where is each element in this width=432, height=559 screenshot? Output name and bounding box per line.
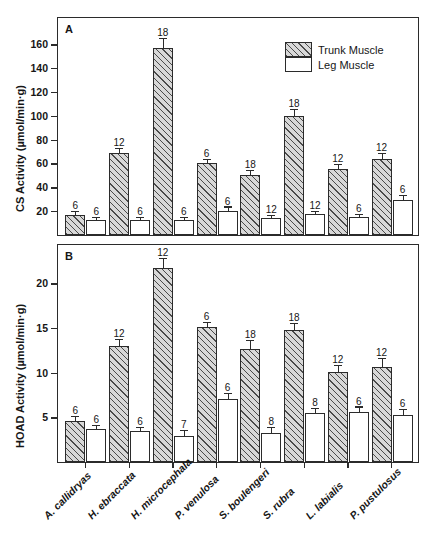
bar-trunk-muscle (109, 153, 129, 235)
error-bar-cap (355, 406, 363, 407)
sample-size-label: 12 (114, 137, 125, 148)
x-axis-tick (129, 463, 130, 468)
bar-group: 127 (153, 245, 194, 462)
sample-size-label: 6 (204, 311, 210, 322)
sample-size-label: 6 (356, 396, 362, 407)
bar-group: 126 (109, 245, 150, 462)
y-axis-tick (51, 328, 57, 329)
y-axis-tick (51, 140, 57, 141)
y-axis-tick (51, 187, 57, 188)
bar-leg-muscle (349, 217, 369, 235)
error-bar (250, 341, 251, 349)
error-bar-cap (334, 164, 342, 165)
error-bar (271, 428, 272, 432)
sample-size-label: 8 (269, 416, 275, 427)
error-bar (315, 409, 316, 413)
error-bar (338, 366, 339, 371)
error-bar (96, 426, 97, 429)
error-bar-cap (267, 215, 275, 216)
sample-size-label: 6 (73, 405, 79, 416)
sample-size-label: 12 (376, 347, 387, 358)
error-bar (228, 208, 229, 211)
error-bar (119, 149, 120, 153)
error-bar (294, 324, 295, 330)
sample-size-label: 6 (400, 184, 406, 195)
error-bar (207, 160, 208, 164)
bar-trunk-muscle (240, 175, 260, 235)
sample-size-label: 18 (157, 27, 168, 38)
x-axis-category-label: P. pustulosus (347, 465, 403, 521)
error-bar-cap (115, 339, 123, 340)
error-bar (163, 39, 164, 47)
x-axis-tick (304, 463, 305, 468)
sample-size-label: 18 (289, 98, 300, 109)
panel-b-y-axis-title: HOAD Activity (µmol/min·g) (14, 304, 26, 448)
bar-trunk-muscle (153, 48, 173, 235)
sample-size-label: 12 (376, 142, 387, 153)
error-bar (250, 171, 251, 176)
bar-leg-muscle (218, 211, 238, 235)
x-axis-category-label: P. venulosa (172, 473, 221, 522)
error-bar (119, 340, 120, 346)
bar-group: 66 (197, 245, 238, 462)
bar-leg-muscle (261, 218, 281, 235)
error-bar (403, 196, 404, 200)
panel-a-y-axis-title: CS Activity (µmol/min·g) (14, 85, 26, 212)
error-bar (75, 212, 76, 216)
y-axis-tick (51, 211, 57, 212)
panel-b-plot-area: 6612612766188188126126 (58, 245, 418, 462)
sample-size-label: 18 (245, 329, 256, 340)
error-bar-cap (203, 322, 211, 323)
sample-size-label: 18 (245, 159, 256, 170)
bar-leg-muscle (86, 220, 106, 235)
error-bar (228, 394, 229, 399)
y-axis-tick-label: 20 (21, 277, 48, 289)
bar-trunk-muscle (328, 169, 348, 235)
y-axis-tick (51, 68, 57, 69)
bar-group: 66 (65, 18, 106, 235)
sample-size-label: 8 (312, 397, 318, 408)
bar-trunk-muscle (197, 163, 217, 235)
error-bar-cap (224, 393, 232, 394)
error-bar-cap (180, 217, 188, 218)
bar-trunk-muscle (153, 268, 173, 462)
error-bar (338, 165, 339, 169)
sample-size-label: 12 (266, 204, 277, 215)
x-axis-category-labels: A. callidryasH. ebraccataH. microcephala… (57, 463, 419, 559)
error-bar-cap (311, 408, 319, 409)
error-bar (359, 215, 360, 217)
bar-leg-muscle (393, 200, 413, 235)
error-bar-cap (355, 214, 363, 215)
y-axis-tick-label: 140 (21, 62, 48, 74)
bar-leg-muscle (305, 214, 325, 235)
sample-size-label: 12 (310, 200, 321, 211)
sample-size-label: 12 (157, 247, 168, 258)
bar-leg-muscle (218, 399, 238, 462)
error-bar-cap (290, 323, 298, 324)
error-bar-cap (180, 430, 188, 431)
error-bar-cap (159, 38, 167, 39)
sample-size-label: 6 (181, 206, 187, 217)
error-bar (96, 218, 97, 220)
x-axis-category-label: S. rubra (260, 485, 297, 522)
error-bar-cap (246, 340, 254, 341)
y-axis-tick (51, 417, 57, 418)
error-bar-cap (71, 416, 79, 417)
legend: Trunk Muscle Leg Muscle (285, 42, 384, 72)
bar-group: 126 (328, 245, 369, 462)
legend-label-leg-muscle: Leg Muscle (318, 59, 374, 71)
error-bar-cap (159, 258, 167, 259)
sample-size-label: 6 (94, 414, 100, 425)
bar-trunk-muscle (65, 215, 85, 235)
x-axis-tick (216, 463, 217, 468)
sample-size-label: 6 (225, 196, 231, 207)
bar-trunk-muscle (109, 346, 129, 462)
sample-size-label: 6 (400, 398, 406, 409)
legend-swatch-leg-muscle (285, 57, 312, 72)
bar-leg-muscle (130, 431, 150, 462)
error-bar-cap (378, 358, 386, 359)
error-bar (403, 410, 404, 415)
error-bar (294, 110, 295, 116)
error-bar-cap (115, 148, 123, 149)
legend-swatch-trunk-muscle (285, 42, 312, 57)
